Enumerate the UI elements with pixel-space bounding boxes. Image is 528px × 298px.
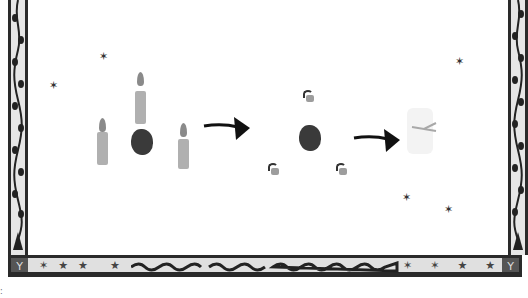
band-stars-right: ✶ ✶ ★ ★ — [403, 258, 495, 272]
squiggle-ornament-icon — [131, 261, 401, 273]
candle-stub — [271, 168, 279, 175]
caption-mark: : — [0, 287, 3, 296]
flame-icon — [180, 123, 187, 137]
right-vine-border — [508, 0, 528, 255]
star-icon: ★ — [485, 259, 495, 272]
flame-icon — [99, 118, 106, 132]
star-icon: ★ — [78, 259, 88, 272]
star-icon: ✶ — [444, 204, 453, 215]
candle-left — [97, 132, 108, 165]
arrow-right-icon — [352, 126, 402, 154]
smoke-wisp-icon — [410, 120, 440, 134]
star-icon: ✶ — [430, 259, 439, 272]
candle-right — [178, 139, 189, 169]
corner-ornament-left: Y — [11, 258, 28, 272]
arrow-right-icon — [202, 114, 252, 142]
candle-top — [135, 91, 146, 124]
stone-icon — [131, 129, 153, 155]
star-icon: ✶ — [402, 192, 411, 203]
star-icon: ✶ — [39, 259, 48, 272]
star-icon: ✶ — [455, 56, 464, 67]
star-icon: ✶ — [403, 259, 412, 272]
bottom-decorative-band: Y Y ✶ ★ ★ ★ ✶ ✶ ★ ★ — [8, 255, 522, 277]
star-icon: ★ — [110, 259, 120, 272]
flame-icon — [137, 72, 144, 86]
band-stars-left: ✶ ★ ★ ★ — [39, 258, 120, 272]
stone-icon — [299, 125, 321, 151]
star-icon: ★ — [457, 259, 467, 272]
vine-pattern-icon — [11, 0, 25, 255]
left-vine-border — [8, 0, 28, 255]
candle-stub — [339, 168, 347, 175]
vine-pattern-icon — [511, 0, 525, 255]
corner-ornament-right: Y — [502, 258, 519, 272]
candle-stub — [306, 95, 314, 102]
star-icon: ★ — [58, 259, 68, 272]
star-icon: ✶ — [99, 51, 108, 62]
star-icon: ✶ — [49, 80, 58, 91]
